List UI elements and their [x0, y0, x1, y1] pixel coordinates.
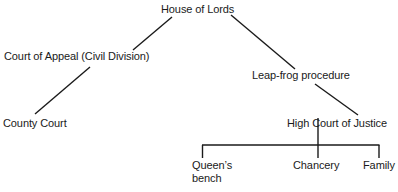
node-chancery: Chancery — [293, 159, 339, 172]
edge-leapfrog-to-highcourt — [315, 84, 358, 115]
node-court-of-appeal: Court of Appeal (Civil Division) — [4, 50, 149, 63]
edge-lords-to-leapfrog — [231, 15, 295, 69]
node-leap-frog-procedure: Leap-frog procedure — [252, 69, 350, 82]
node-queens-bench: Queen’s bench — [192, 159, 232, 185]
edge-lords-to-appeal — [133, 17, 172, 50]
court-hierarchy-diagram: House of Lords Court of Appeal (Civil Di… — [0, 0, 398, 192]
node-county-court: County Court — [3, 117, 67, 130]
queens-bench-line1: Queen’s — [192, 159, 232, 172]
queens-bench-line2: bench — [192, 172, 232, 185]
node-high-court-of-justice: High Court of Justice — [287, 117, 387, 130]
node-house-of-lords: House of Lords — [161, 3, 234, 16]
edge-appeal-to-county — [35, 67, 90, 114]
node-family: Family — [363, 159, 395, 172]
